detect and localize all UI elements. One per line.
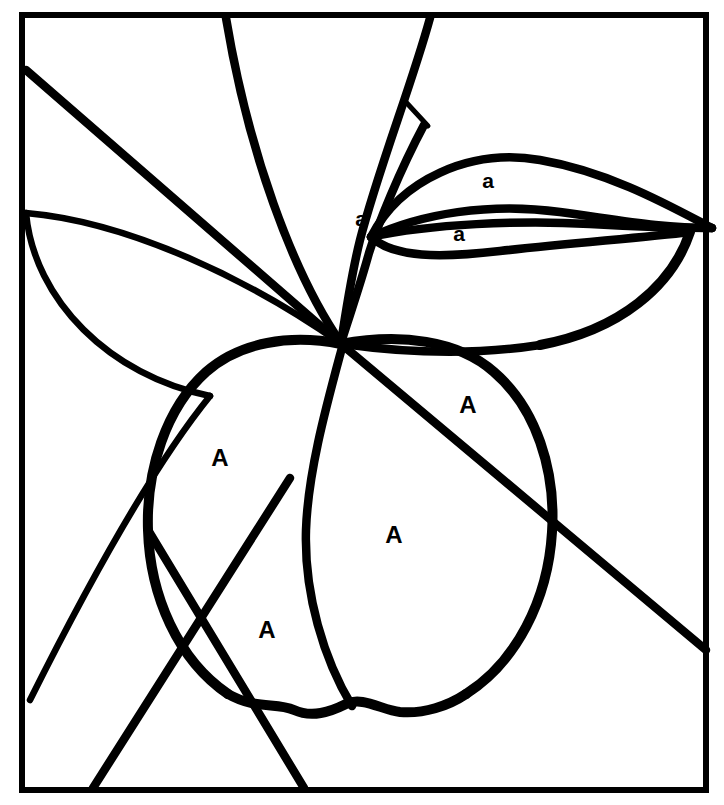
left-leaf-upper-edge (26, 213, 340, 343)
fruit-outline-left-lobe (148, 340, 341, 694)
stem-cross-tick (404, 100, 428, 126)
long-diagonal-from-left-border (26, 70, 340, 343)
fruit-outline-right-lobe (341, 339, 553, 694)
apple-diagram-canvas (0, 0, 724, 805)
left-leaf-lower-edge (26, 213, 210, 396)
label-leaf-upper: a (482, 170, 494, 191)
label-leaf-stem: a (355, 208, 367, 229)
apple-diagram-figure: AAAAaaa (0, 0, 724, 805)
label-fruit-upper-right: A (459, 393, 476, 417)
lower-right-leaf-bottom-edge (371, 232, 690, 255)
label-fruit-left: A (211, 446, 228, 470)
outer-border-frame (22, 15, 706, 790)
fruit-inner-vertical-divider (306, 344, 352, 706)
label-fruit-lower-left: A (258, 618, 275, 642)
label-fruit-center: A (385, 523, 402, 547)
label-leaf-lower: a (453, 223, 465, 244)
long-diagonal-to-right-border (340, 343, 706, 650)
right-leaf-large-lower-edge (540, 232, 690, 345)
